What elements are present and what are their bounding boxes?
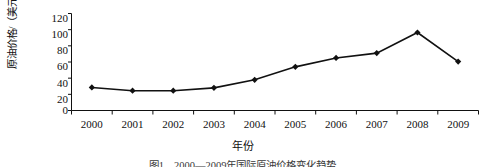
data-point-marker xyxy=(129,88,135,94)
data-point-marker xyxy=(170,88,176,94)
y-tick-label: 100 xyxy=(42,29,68,40)
x-tick-label: 2005 xyxy=(272,118,318,130)
series-line-crude-oil-price xyxy=(92,33,458,91)
y-tick-label: 40 xyxy=(42,78,68,89)
figure-chart: 原油价格/（美元/桶） 120 100 80 60 40 20 0 200020… xyxy=(0,0,485,167)
y-tick-label: 80 xyxy=(42,45,68,56)
data-point-marker xyxy=(89,84,95,90)
x-tick-label: 2009 xyxy=(435,118,481,130)
data-point-marker xyxy=(292,64,298,70)
y-tick-label: 60 xyxy=(42,61,68,72)
y-tick-label: 0 xyxy=(42,105,68,116)
figure-caption: 图1 2000—2009年国际原油价格变化趋势 xyxy=(0,157,485,167)
x-axis-title: 年份 xyxy=(0,137,485,153)
x-tick-label: 2006 xyxy=(313,118,359,130)
x-tick-label: 2000 xyxy=(69,118,115,130)
x-axis-ticks xyxy=(72,111,479,115)
x-tick-label: 2003 xyxy=(191,118,237,130)
x-tick-label: 2007 xyxy=(354,118,400,130)
y-axis-title: 原油价格/（美元/桶） xyxy=(4,0,19,77)
data-point-marker xyxy=(211,85,217,91)
x-axis-tick-labels: 2000200120022003200420052006200720082009 xyxy=(0,118,485,134)
data-point-marker xyxy=(252,77,258,83)
y-axis-ticks xyxy=(68,14,72,111)
data-point-marker xyxy=(333,55,339,61)
x-tick-label: 2004 xyxy=(232,118,278,130)
x-tick-label: 2008 xyxy=(394,118,440,130)
y-tick-label: 120 xyxy=(42,13,68,24)
x-tick-label: 2001 xyxy=(110,118,156,130)
x-tick-label: 2002 xyxy=(150,118,196,130)
data-point-marker xyxy=(374,50,380,56)
